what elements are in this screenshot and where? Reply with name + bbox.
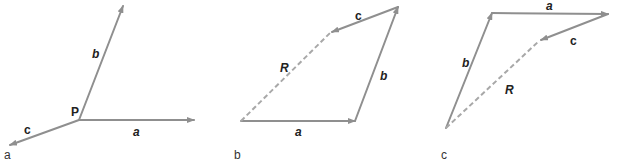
vector-c-label: c: [355, 9, 362, 23]
vector-a-label: a: [133, 125, 140, 139]
vector-c-arrow: [10, 120, 79, 145]
vector-c-label: c: [570, 34, 577, 48]
panel-b: a b c R b: [234, 7, 398, 161]
vector-b-arrow: [355, 7, 398, 121]
vector-b-label: b: [380, 69, 387, 83]
vector-b-label: b: [462, 56, 469, 70]
panel-c-label: c: [441, 148, 447, 161]
vector-addition-diagram: b a c P a a b c R b a b c R c: [0, 0, 632, 161]
vector-c-arrow: [332, 7, 398, 32]
resultant-R-label: R: [280, 61, 289, 75]
vector-a-arrow: [492, 13, 608, 14]
panel-a: b a c P a: [4, 6, 194, 161]
point-p-label: P: [71, 105, 79, 119]
panel-b-label: b: [234, 148, 241, 161]
vector-b-arrow: [79, 6, 123, 120]
resultant-R-arrow: [446, 41, 539, 128]
resultant-R-label: R: [505, 83, 514, 97]
panel-a-label: a: [4, 148, 11, 161]
vector-b-label: b: [92, 47, 99, 61]
panel-c: a b c R c: [441, 0, 608, 161]
vector-a-label: a: [546, 0, 553, 13]
vector-b-arrow: [446, 13, 492, 128]
vector-c-label: c: [24, 123, 31, 137]
vector-a-label: a: [295, 125, 302, 139]
resultant-R-arrow: [241, 33, 330, 121]
